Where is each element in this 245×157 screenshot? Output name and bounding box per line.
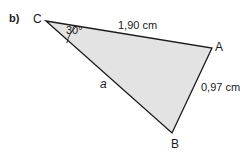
vertex-label-b: B [171,138,179,150]
side-length-label-cb: a [100,78,107,90]
triangle-shape [46,21,212,133]
vertex-label-c: C [33,13,42,25]
item-marker: b) [9,13,19,24]
angle-measure-label-c: 30° [66,25,83,36]
side-length-label-ca: 1,90 cm [118,20,157,31]
vertex-label-a: A [215,41,223,53]
side-length-label-ab: 0,97 cm [201,82,240,93]
figure-canvas: b) C A B 30° 1,90 cm 0,97 cm a [0,0,245,157]
